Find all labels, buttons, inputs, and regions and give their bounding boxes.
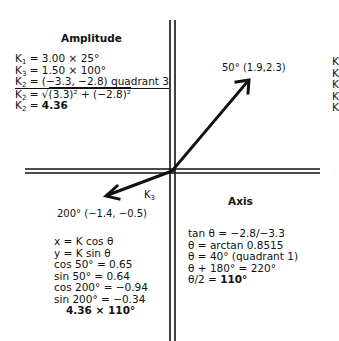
vector-k3-label: K3: [144, 189, 155, 200]
amplitude-result: 4.36: [42, 99, 68, 111]
axis-end-mark: ·: [334, 169, 335, 176]
vector-50deg-arrow: [172, 80, 249, 171]
component-line-3: cos 50° = 0.65: [54, 259, 148, 271]
axis-line-1: tan θ = −2.8/−3.3: [188, 228, 298, 240]
axis-line-5: θ/2 = 110°: [188, 274, 298, 286]
component-equations: x = K cos θ y = K sin θ cos 50° = 0.65 s…: [54, 236, 148, 317]
vector-50deg-label: 50° (1.9,2.3): [222, 62, 286, 73]
component-line-5: cos 200° = −0.94: [54, 282, 148, 294]
axis-line-3: θ = 40° (quadrant 1): [188, 251, 298, 263]
vector-200deg-arrow: [106, 171, 172, 199]
amplitude-equations: K1 = 3.00 × 25° K3 = 1.50 × 100° K2 = (−…: [15, 53, 169, 112]
axis-result: 110°: [220, 273, 247, 285]
component-line-1: x = K cos θ: [54, 236, 148, 248]
component-result: 4.36 × 110°: [54, 305, 148, 317]
vertical-axis: [170, 20, 175, 341]
clipped-right-text: K K K K K: [332, 56, 339, 114]
amplitude-title: Amplitude: [61, 32, 122, 44]
vector-200deg-label: 200° (−1.4, −0.5): [57, 208, 147, 219]
axis-title: Axis: [228, 195, 253, 207]
amplitude-line-5: K2 = 4.36: [15, 100, 169, 112]
axis-equations: tan θ = −2.8/−3.3 θ = arctan 0.8515 θ = …: [188, 228, 298, 286]
